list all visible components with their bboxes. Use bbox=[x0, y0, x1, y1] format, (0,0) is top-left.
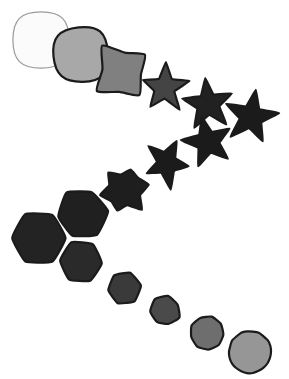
morph-shape-1-square bbox=[53, 27, 108, 82]
morph-shape-2-star4 bbox=[97, 45, 146, 95]
morph-shape-14-nonagon bbox=[191, 317, 223, 350]
morph-shape-10-hexagon bbox=[12, 213, 65, 262]
morph-shape-11-hexagon bbox=[60, 242, 102, 281]
morph-shape-12-hexagon bbox=[108, 273, 141, 304]
morph-shape-15-circle bbox=[229, 331, 271, 373]
shape-sequence-svg bbox=[0, 0, 289, 379]
figure-canvas bbox=[0, 0, 289, 379]
